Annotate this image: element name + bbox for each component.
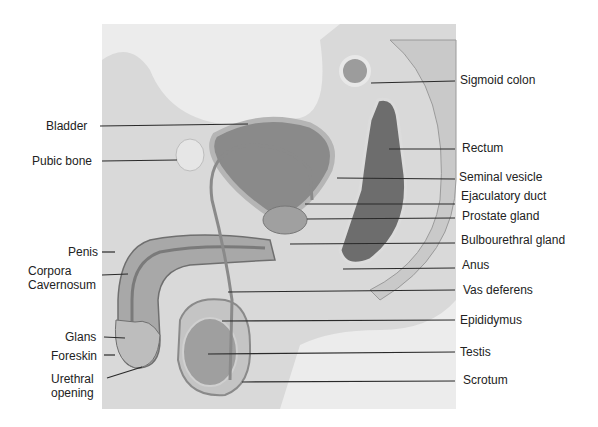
label-bladder: Bladder: [46, 119, 87, 133]
label-sigmoid-colon: Sigmoid colon: [460, 73, 535, 87]
prostate-shape: [263, 206, 307, 234]
sigmoid-colon-shape: [341, 57, 369, 85]
label-pubic-bone: Pubic bone: [32, 154, 92, 168]
label-urethral-opening: Urethral opening: [51, 372, 94, 400]
label-prostate-gland: Prostate gland: [462, 209, 539, 223]
label-epididymus: Epididymus: [460, 313, 522, 327]
label-bulbourethral-gland: Bulbourethral gland: [461, 233, 565, 247]
label-penis: Penis: [68, 245, 98, 259]
label-rectum: Rectum: [462, 141, 503, 155]
label-foreskin: Foreskin: [51, 349, 97, 363]
label-anus: Anus: [462, 258, 489, 272]
pubic-bone-shape: [176, 139, 204, 171]
label-testis: Testis: [460, 345, 491, 359]
label-corpora-cavernosum: Corpora Cavernosum: [28, 264, 96, 292]
label-glans: Glans: [65, 330, 96, 344]
label-vas-deferens: Vas deferens: [463, 283, 533, 297]
label-ejaculatory-duct: Ejaculatory duct: [461, 189, 546, 203]
label-scrotum: Scrotum: [463, 373, 508, 387]
label-seminal-vesicle: Seminal vesicle: [459, 170, 542, 184]
